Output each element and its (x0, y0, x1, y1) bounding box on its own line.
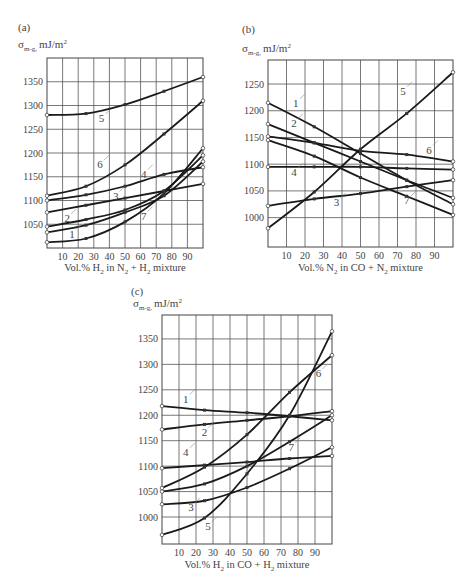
leader-line (411, 191, 416, 196)
data-point-marker (246, 486, 249, 489)
data-point-marker (313, 190, 316, 193)
data-point-marker (330, 353, 334, 357)
data-point-marker (266, 227, 270, 231)
data-point-marker (330, 446, 334, 450)
x-tick-label: 20 (300, 250, 310, 261)
data-point-marker (451, 196, 455, 200)
curve-label-3: 3 (334, 196, 340, 208)
figure-canvas: (a)σm-g,mJ/m2102030405060708090105011001… (0, 0, 472, 584)
data-point-marker (451, 168, 455, 172)
data-point-marker (163, 194, 166, 197)
curve-label-7: 7 (288, 441, 294, 453)
y-tick-label: 1250 (138, 384, 158, 395)
data-point-marker (160, 486, 164, 490)
chart-panel-c: (c)σm-g,mJ/m2102030405060708090100010501… (131, 285, 334, 573)
chart-panel-a: (a)σm-g,mJ/m2102030405060708090105011001… (18, 21, 205, 276)
leader-line (148, 165, 153, 170)
data-point-marker (160, 490, 164, 494)
y-tick-label: 1100 (138, 461, 158, 472)
data-point-marker (313, 197, 316, 200)
x-tick-label: 30 (319, 250, 329, 261)
data-point-marker (246, 433, 249, 436)
data-point-marker (359, 152, 362, 155)
data-point-marker (85, 237, 88, 240)
curve-label-4: 4 (291, 166, 297, 178)
data-point-marker (266, 122, 270, 126)
data-point-marker (405, 179, 408, 182)
y-tick-label: 1150 (244, 132, 264, 143)
data-point-marker (246, 411, 249, 414)
data-point-marker (266, 135, 270, 139)
data-point-marker (160, 428, 164, 432)
x-tick-label: 80 (167, 251, 177, 262)
curve-label-3: 3 (113, 190, 119, 202)
data-point-marker (203, 466, 206, 469)
x-tick-label: 30 (89, 251, 99, 262)
x-tick-label: 50 (356, 250, 366, 261)
leader-line (190, 390, 195, 395)
curve-label-5: 5 (205, 520, 211, 532)
curve-label-4: 4 (183, 446, 189, 458)
curve-label-2: 2 (65, 212, 71, 224)
curve-label-1: 1 (293, 97, 299, 109)
data-point-marker (313, 125, 316, 128)
x-tick-label: 30 (208, 547, 218, 558)
data-point-marker (124, 163, 127, 166)
y-tick-label: 1200 (244, 105, 264, 116)
data-point-marker (163, 133, 166, 136)
y-axis-label: σm-g,mJ/m2 (242, 42, 291, 57)
data-point-marker (330, 329, 334, 333)
y-tick-label: 1300 (138, 359, 158, 370)
x-tick-label: 40 (225, 547, 235, 558)
y-axis-label: σm-g,mJ/m2 (133, 297, 182, 312)
data-point-marker (359, 165, 362, 168)
data-point-marker (85, 112, 88, 115)
data-point-marker (201, 99, 205, 103)
x-tick-label: 60 (374, 250, 384, 261)
y-tick-label: 1350 (138, 333, 158, 344)
data-point-marker (203, 409, 206, 412)
x-tick-label: 60 (259, 547, 269, 558)
data-point-marker (45, 241, 49, 245)
data-point-marker (85, 193, 88, 196)
data-point-marker (266, 165, 270, 169)
data-point-marker (160, 503, 164, 507)
curve-label-7: 7 (404, 194, 410, 206)
data-point-marker (246, 465, 249, 468)
y-tick-label: 1200 (23, 148, 43, 159)
data-point-marker (288, 414, 291, 417)
data-point-marker (451, 213, 455, 217)
data-point-marker (359, 192, 362, 195)
leader-line (298, 114, 303, 119)
x-tick-label: 20 (73, 251, 83, 262)
curve-label-1: 1 (69, 228, 75, 240)
x-tick-label: 20 (191, 547, 201, 558)
data-point-marker (313, 155, 316, 158)
y-tick-label: 1150 (138, 435, 158, 446)
data-point-marker (451, 70, 455, 74)
y-tick-label: 1350 (23, 76, 43, 87)
y-tick-label: 1050 (23, 219, 43, 230)
y-tick-label: 1150 (23, 171, 43, 182)
y-tick-label: 1250 (23, 124, 43, 135)
data-point-marker (201, 160, 205, 164)
x-axis-label: Vol.% H2 in N2 + H2 mixture (64, 262, 186, 276)
data-point-marker (201, 182, 205, 186)
x-tick-label: 10 (282, 250, 292, 261)
y-tick-label: 1000 (138, 512, 158, 523)
y-tick-label: 1050 (138, 486, 158, 497)
data-point-marker (160, 533, 164, 537)
curve-label-5: 5 (99, 112, 105, 124)
x-axis-label: Vol.% N2 in CO + N2 mixture (298, 262, 423, 276)
x-tick-label: 70 (151, 251, 161, 262)
leader-line (433, 141, 438, 146)
y-tick-label: 1050 (244, 185, 264, 196)
curve-label-5: 5 (400, 85, 406, 97)
x-tick-label: 50 (120, 251, 130, 262)
data-point-marker (201, 154, 205, 158)
data-point-marker (201, 75, 205, 79)
chart-panel-b: (b)σm-g,mJ/m2102030405060708090100010501… (242, 23, 455, 276)
data-point-marker (163, 90, 166, 93)
data-point-marker (203, 499, 206, 502)
data-point-marker (266, 204, 270, 208)
